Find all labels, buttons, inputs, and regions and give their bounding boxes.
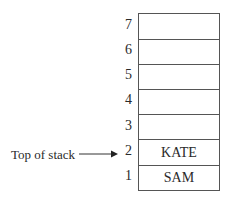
- stack-slot-4: [139, 89, 219, 114]
- stack-slot-2: KATE: [139, 139, 219, 164]
- slot-index-4: 4: [120, 92, 132, 108]
- stack-slot-7: [139, 14, 219, 39]
- stack-slot-5: [139, 64, 219, 89]
- slot-index-6: 6: [120, 42, 132, 58]
- slot-index-1: 1: [120, 168, 132, 184]
- stack-slot-1: SAM: [139, 165, 219, 190]
- arrow-right-icon: [77, 147, 119, 161]
- top-of-stack-label: Top of stack: [11, 147, 75, 163]
- slot-index-5: 5: [120, 67, 132, 83]
- stack-slot-6: [139, 39, 219, 64]
- slot-index-7: 7: [120, 17, 132, 33]
- slot-index-2: 2: [120, 143, 132, 159]
- stack-box: KATE SAM: [138, 13, 220, 191]
- slot-index-3: 3: [120, 118, 132, 134]
- stack-slot-3: [139, 114, 219, 139]
